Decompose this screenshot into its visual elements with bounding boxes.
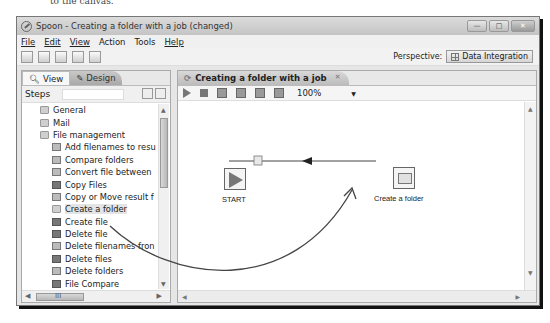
- scroll-grip: III: [55, 292, 61, 300]
- zoom-value: 100%: [297, 88, 321, 98]
- pencil-icon: ✎: [76, 73, 83, 83]
- file-compare-icon: [52, 280, 61, 288]
- tree-item-copy-files[interactable]: Copy Files: [22, 178, 158, 190]
- start-node[interactable]: [224, 168, 246, 190]
- folder-open-icon: [40, 131, 49, 139]
- maximize-button[interactable]: □: [489, 20, 509, 32]
- delete-files-icon: [52, 255, 61, 263]
- job-canvas[interactable]: START Create a folder: [178, 102, 524, 290]
- tree-item-delete-files[interactable]: Delete files: [22, 253, 158, 265]
- close-tab-icon[interactable]: ✕: [335, 73, 341, 81]
- tree-label: Create file: [65, 217, 108, 227]
- delete-file-icon: [52, 230, 61, 238]
- grid-icon: [451, 53, 459, 61]
- impact-icon[interactable]: [236, 88, 246, 98]
- menu-action[interactable]: Action: [99, 37, 126, 47]
- scroll-right-arrow-icon[interactable]: ▶: [157, 292, 162, 300]
- create-folder-icon: [52, 205, 61, 213]
- expand-all-button[interactable]: [142, 88, 153, 99]
- compare-folders-icon: [52, 156, 61, 164]
- menu-help[interactable]: Help: [164, 37, 183, 47]
- sql-icon[interactable]: [255, 88, 265, 98]
- menu-tools[interactable]: Tools: [135, 37, 156, 47]
- spoon-app-icon: [21, 21, 32, 32]
- tab-view[interactable]: 🔍︎ View: [22, 71, 70, 85]
- spoon-window: Spoon - Creating a folder with a job (ch…: [16, 16, 540, 306]
- menu-bar: File Edit View Action Tools Help: [17, 35, 539, 48]
- start-play-icon: [229, 172, 243, 188]
- minimize-button[interactable]: —: [467, 20, 487, 32]
- run-icon[interactable]: [183, 88, 191, 98]
- canvas-horizontal-scrollbar[interactable]: ◀ ▶: [178, 290, 536, 302]
- steps-horizontal-scrollbar[interactable]: ◀ III ▶: [22, 290, 170, 302]
- menu-edit[interactable]: Edit: [44, 37, 60, 47]
- save-as-icon[interactable]: [89, 51, 101, 63]
- job-icon: ⟳: [184, 73, 191, 83]
- tree-item-create-file[interactable]: Create file: [22, 216, 158, 228]
- menu-view[interactable]: View: [70, 37, 90, 47]
- stop-icon[interactable]: [200, 89, 208, 97]
- perspective-value: Data Integration: [462, 52, 528, 61]
- job-toolbar: 100% ▼: [178, 86, 536, 101]
- window-title: Spoon - Creating a folder with a job (ch…: [36, 21, 233, 31]
- tree-label: Add filenames to resu: [65, 142, 156, 152]
- tree-label: File management: [53, 130, 125, 140]
- perspective-switcher: Perspective: Data Integration: [393, 50, 533, 63]
- new-file-icon[interactable]: [21, 51, 33, 63]
- exploredb-icon[interactable]: [274, 88, 284, 98]
- convert-file-icon: [52, 168, 61, 176]
- zoom-select[interactable]: 100% ▼: [297, 88, 356, 98]
- tree-item-create-folder[interactable]: Create a folder: [22, 203, 158, 215]
- tree-category-mail[interactable]: Mail: [22, 116, 158, 128]
- tree-label: Delete folders: [65, 266, 123, 276]
- tree-label: File Compare: [65, 279, 119, 289]
- steps-tree: General Mail File management Add filenam…: [22, 104, 158, 289]
- scroll-down-arrow-icon[interactable]: ▼: [161, 280, 166, 287]
- perspective-button[interactable]: Data Integration: [446, 50, 533, 63]
- tree-item-convert-file[interactable]: Convert file between: [22, 166, 158, 178]
- folder-icon: [40, 106, 49, 114]
- delete-filenames-icon: [52, 242, 61, 250]
- title-bar: Spoon - Creating a folder with a job (ch…: [17, 17, 539, 35]
- tree-label: Delete file: [65, 229, 108, 239]
- collapse-all-button[interactable]: [155, 88, 166, 99]
- copy-move-icon: [52, 193, 61, 201]
- create-folder-node[interactable]: [393, 167, 415, 189]
- menu-file[interactable]: File: [21, 37, 35, 47]
- open-icon[interactable]: [38, 51, 50, 63]
- explore-repository-icon[interactable]: [55, 51, 67, 63]
- verify-icon[interactable]: [217, 88, 227, 98]
- save-icon[interactable]: [72, 51, 84, 63]
- scroll-right-arrow-icon[interactable]: ▶: [515, 293, 520, 300]
- steps-vertical-scrollbar[interactable]: ▲ ▼: [158, 104, 169, 289]
- main-toolbar: Perspective: Data Integration: [17, 48, 539, 66]
- job-editor-panel: ⟳ Creating a folder with a job ✕ 100% ▼ …: [177, 70, 537, 303]
- canvas-vertical-scrollbar[interactable]: ▲ ▼: [524, 102, 536, 290]
- delete-folders-icon: [52, 267, 61, 275]
- steps-search-input[interactable]: [62, 89, 124, 100]
- tree-category-general[interactable]: General: [22, 104, 158, 116]
- tab-job[interactable]: ⟳ Creating a folder with a job ✕: [178, 71, 349, 85]
- tab-view-label: View: [43, 74, 63, 84]
- tree-item-compare-folders[interactable]: Compare folders: [22, 154, 158, 166]
- create-folder-node-label: Create a folder: [374, 194, 424, 203]
- tree-item-delete-filenames[interactable]: Delete filenames fron: [22, 240, 158, 252]
- tree-item-add-filenames[interactable]: Add filenames to resu: [22, 141, 158, 153]
- scroll-left-arrow-icon[interactable]: ◀: [25, 292, 30, 300]
- scroll-down-arrow-icon[interactable]: ▼: [528, 269, 533, 276]
- tree-item-delete-folders[interactable]: Delete folders: [22, 265, 158, 277]
- tree-item-copy-move-result[interactable]: Copy or Move result f: [22, 191, 158, 203]
- scroll-left-arrow-icon[interactable]: ◀: [182, 293, 187, 300]
- tree-item-file-compare[interactable]: File Compare: [22, 277, 158, 289]
- scroll-up-arrow-icon[interactable]: ▲: [161, 106, 166, 113]
- steps-label: Steps: [25, 89, 50, 99]
- copy-files-icon: [52, 181, 61, 189]
- close-button[interactable]: ✕: [511, 20, 535, 32]
- scroll-thumb[interactable]: III: [36, 293, 84, 301]
- tab-design[interactable]: ✎ Design: [70, 71, 121, 85]
- tree-category-file-management[interactable]: File management: [22, 129, 158, 141]
- scroll-up-arrow-icon[interactable]: ▲: [528, 105, 533, 112]
- scroll-thumb[interactable]: [160, 118, 168, 188]
- create-file-icon: [52, 218, 61, 226]
- tree-item-delete-file[interactable]: Delete file: [22, 228, 158, 240]
